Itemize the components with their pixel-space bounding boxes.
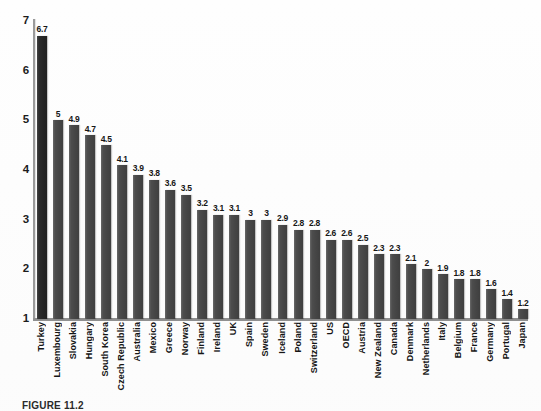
category-label-iceland: Iceland <box>278 322 287 354</box>
bar-value-label: 3.5 <box>181 184 192 193</box>
bar-uk <box>229 215 239 319</box>
bar-slot: 1.9 <box>438 21 448 319</box>
bar-slot: 3.5 <box>181 21 191 319</box>
bar-value-label: 3.1 <box>213 204 224 213</box>
bar-value-label: 3.2 <box>197 199 208 208</box>
bar-hungary <box>85 135 95 319</box>
y-axis-tick-3: 3 <box>3 214 29 226</box>
bar-slot: 1.2 <box>518 21 528 319</box>
bar-value-label: 2 <box>425 259 429 268</box>
bar-value-label: 1.6 <box>485 279 496 288</box>
bar-slot: 2.8 <box>294 21 304 319</box>
bar-us <box>326 240 336 319</box>
y-axis-tick-4: 4 <box>3 164 29 176</box>
bar-slot: 2.6 <box>342 21 352 319</box>
bar-value-label: 3.6 <box>165 179 176 188</box>
category-label-south-korea: South Korea <box>101 322 110 377</box>
bar-slot: 5 <box>53 21 63 319</box>
bar-australia <box>133 175 143 319</box>
category-label-mexico: Mexico <box>149 322 158 353</box>
bar-value-label: 2.1 <box>405 254 416 263</box>
category-label-new-zealand: New Zealand <box>374 322 383 378</box>
bar-slot: 4.7 <box>85 21 95 319</box>
bar-ireland <box>213 215 223 319</box>
bar-slot: 2.3 <box>390 21 400 319</box>
bar-value-label: 5 <box>56 110 60 119</box>
x-axis-category-labels: TurkeyLuxembourgSlovakiaHungarySouth Kor… <box>34 322 531 400</box>
bar-value-label: 2.8 <box>309 219 320 228</box>
y-axis-tick-2: 2 <box>3 264 29 276</box>
figure-caption: FIGURE 11.2 <box>22 400 84 411</box>
bar-value-label: 1.9 <box>437 264 448 273</box>
bar-slot: 4.1 <box>117 21 127 319</box>
category-label-greece: Greece <box>165 322 174 353</box>
category-label-uk: UK <box>229 322 238 335</box>
bar-value-label: 2.9 <box>277 214 288 223</box>
category-label-italy: Italy <box>438 322 447 341</box>
bar-norway <box>181 195 191 319</box>
bar-japan <box>518 309 528 319</box>
bar-czech-republic <box>117 165 127 319</box>
bar-finland <box>197 210 207 319</box>
category-label-spain: Spain <box>245 322 254 347</box>
category-label-finland: Finland <box>197 322 206 355</box>
bar-slot: 2.8 <box>310 21 320 319</box>
category-label-belgium: Belgium <box>454 322 463 358</box>
category-label-netherlands: Netherlands <box>422 322 431 375</box>
bar-luxembourg <box>53 120 63 319</box>
bar-value-label: 4.7 <box>85 125 96 134</box>
category-label-portugal: Portugal <box>502 322 511 359</box>
bar-slot: 3.9 <box>133 21 143 319</box>
bar-germany <box>486 289 496 319</box>
bar-slot: 3 <box>261 21 271 319</box>
bar-slot: 2 <box>422 21 432 319</box>
category-label-australia: Australia <box>133 322 142 361</box>
bar-value-label: 4.5 <box>101 135 112 144</box>
bar-value-label: 1.8 <box>453 269 464 278</box>
y-axis-tick-5: 5 <box>3 115 29 127</box>
bar-spain <box>245 220 255 319</box>
category-label-austria: Austria <box>358 322 367 354</box>
bar-denmark <box>406 264 416 319</box>
category-label-france: France <box>470 322 479 352</box>
bar-austria <box>358 245 368 320</box>
bar-slot: 1.8 <box>470 21 480 319</box>
y-axis-tick-6: 6 <box>3 65 29 77</box>
y-axis-tick-7: 7 <box>3 15 29 27</box>
bar-value-label: 2.8 <box>293 219 304 228</box>
bar-canada <box>390 254 400 319</box>
bar-slot: 3.8 <box>149 21 159 319</box>
bar-iceland <box>278 225 288 319</box>
category-label-ireland: Ireland <box>213 322 222 352</box>
category-label-turkey: Turkey <box>37 322 46 351</box>
bar-value-label: 2.3 <box>373 244 384 253</box>
bar-value-label: 2.6 <box>341 229 352 238</box>
bar-italy <box>438 274 448 319</box>
bar-slot: 3.1 <box>229 21 239 319</box>
bar-value-label: 3 <box>264 209 268 218</box>
bar-belgium <box>454 279 464 319</box>
category-label-hungary: Hungary <box>85 322 94 359</box>
bar-slot: 2.6 <box>326 21 336 319</box>
bar-slot: 3.1 <box>213 21 223 319</box>
bar-value-label: 3.9 <box>133 164 144 173</box>
bar-netherlands <box>422 269 432 319</box>
category-label-canada: Canada <box>390 322 399 355</box>
bar-value-label: 2.3 <box>389 244 400 253</box>
bar-value-label: 1.2 <box>518 299 529 308</box>
category-label-norway: Norway <box>181 322 190 355</box>
bar-slot: 1.8 <box>454 21 464 319</box>
category-label-germany: Germany <box>486 322 495 362</box>
bar-slot: 2.9 <box>278 21 288 319</box>
bar-slot: 3.6 <box>165 21 175 319</box>
bar-new-zealand <box>374 254 384 319</box>
bar-south-korea <box>101 145 111 319</box>
bar-slot: 2.3 <box>374 21 384 319</box>
category-label-luxembourg: Luxembourg <box>53 322 62 378</box>
bar-portugal <box>502 299 512 319</box>
bar-value-label: 3.1 <box>229 204 240 213</box>
bar-value-label: 1.4 <box>501 289 512 298</box>
category-label-us: US <box>326 322 335 335</box>
bar-value-label: 4.9 <box>69 115 80 124</box>
bar-value-label: 2.5 <box>357 234 368 243</box>
